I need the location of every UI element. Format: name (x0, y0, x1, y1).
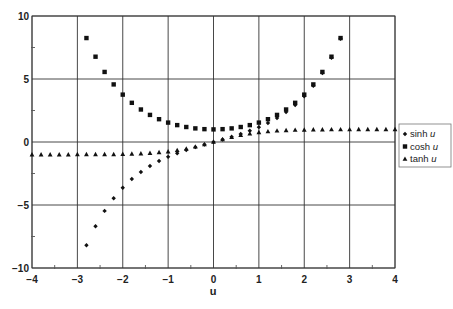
hyperbolic-functions-chart: 1050−5−10 −4−3−2−101234 u sinh ucosh uta… (0, 0, 453, 309)
x-axis-tick-labels: −4−3−2−101234 (26, 274, 398, 285)
square-marker (157, 117, 161, 121)
square-marker (220, 127, 224, 131)
y-tick-label: −10 (12, 263, 29, 274)
legend-label: cosh u (410, 141, 439, 152)
square-marker (193, 126, 197, 130)
legend-label: tanh u (410, 153, 437, 164)
square-marker (111, 82, 115, 86)
square-marker (130, 101, 134, 105)
square-marker (139, 107, 143, 111)
square-marker (93, 54, 97, 58)
square-marker (175, 123, 179, 127)
x-axis-title: u (210, 285, 217, 297)
square-marker (239, 125, 243, 129)
x-tick-label: 4 (392, 274, 398, 285)
square-marker (148, 113, 152, 117)
legend: sinh ucosh utanh u (399, 124, 451, 167)
legend-label: sinh u (410, 128, 436, 139)
square-marker (302, 92, 306, 96)
x-tick-label: −4 (26, 274, 38, 285)
square-marker (311, 82, 315, 86)
x-tick-label: 1 (256, 274, 262, 285)
square-marker (211, 127, 215, 131)
square-marker (403, 144, 407, 148)
square-marker (275, 113, 279, 117)
square-marker (266, 117, 270, 121)
square-marker (121, 92, 125, 96)
square-marker (329, 54, 333, 58)
square-marker (338, 36, 342, 40)
square-marker (284, 107, 288, 111)
x-tick-label: 2 (301, 274, 307, 285)
square-marker (293, 101, 297, 105)
x-tick-label: 0 (211, 274, 217, 285)
x-tick-label: 3 (347, 274, 353, 285)
square-marker (184, 125, 188, 129)
square-marker (102, 70, 106, 74)
x-tick-label: −1 (162, 274, 174, 285)
x-tick-label: −2 (117, 274, 129, 285)
y-tick-label: 0 (23, 137, 29, 148)
square-marker (257, 120, 261, 124)
square-marker (84, 36, 88, 40)
square-marker (248, 123, 252, 127)
square-marker (202, 127, 206, 131)
y-tick-label: 10 (18, 11, 30, 22)
square-marker (166, 120, 170, 124)
y-tick-label: 5 (23, 74, 29, 85)
square-marker (229, 126, 233, 130)
x-tick-label: −3 (72, 274, 84, 285)
y-axis-tick-labels: 1050−5−10 (12, 11, 29, 274)
y-tick-label: −5 (18, 200, 30, 211)
square-marker (320, 70, 324, 74)
